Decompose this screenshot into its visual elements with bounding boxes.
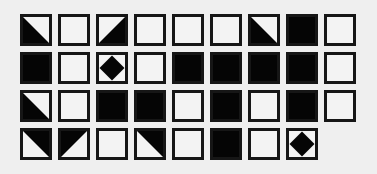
grid-cell-filled bbox=[248, 52, 280, 84]
grid-cell-filled bbox=[134, 90, 166, 122]
grid-cell-filled bbox=[20, 52, 52, 84]
grid-cell-filled bbox=[286, 90, 318, 122]
grid-cell-diamond bbox=[96, 52, 128, 84]
grid-blank bbox=[324, 128, 356, 160]
grid-cell-empty bbox=[324, 90, 356, 122]
tri-top-right-icon bbox=[23, 131, 49, 157]
grid-cell-tri-bottom-left bbox=[20, 14, 52, 46]
tri-bottom-left-icon bbox=[251, 17, 277, 43]
grid-cell-empty bbox=[172, 90, 204, 122]
grid-cell-tri-bottom-left bbox=[248, 14, 280, 46]
grid-cell-empty bbox=[58, 90, 90, 122]
grid-cell-empty bbox=[324, 52, 356, 84]
grid-cell-empty bbox=[324, 14, 356, 46]
grid-cell-tri-bottom-left bbox=[20, 90, 52, 122]
grid-cell-empty bbox=[96, 128, 128, 160]
grid-cell-diamond bbox=[286, 128, 318, 160]
grid-cell-filled bbox=[96, 90, 128, 122]
grid-cell-filled bbox=[210, 90, 242, 122]
tri-top-right-icon bbox=[137, 131, 163, 157]
tri-bottom-left-icon bbox=[23, 17, 49, 43]
pattern-grid bbox=[20, 14, 356, 160]
grid-cell-empty bbox=[58, 52, 90, 84]
grid-cell-empty bbox=[172, 128, 204, 160]
grid-cell-empty bbox=[248, 128, 280, 160]
diamond-icon bbox=[289, 131, 315, 157]
diamond-icon bbox=[99, 55, 125, 81]
grid-cell-tri-bottom-right bbox=[96, 14, 128, 46]
grid-cell-filled bbox=[210, 52, 242, 84]
grid-cell-empty bbox=[134, 14, 166, 46]
grid-cell-filled bbox=[210, 128, 242, 160]
grid-cell-empty bbox=[134, 52, 166, 84]
grid-cell-empty bbox=[58, 14, 90, 46]
tri-bottom-right-icon bbox=[99, 17, 125, 43]
grid-cell-tri-top-left bbox=[58, 128, 90, 160]
grid-cell-filled bbox=[172, 52, 204, 84]
grid-cell-empty bbox=[210, 14, 242, 46]
tri-top-left-icon bbox=[61, 131, 87, 157]
grid-cell-tri-top-right bbox=[134, 128, 166, 160]
grid-cell-tri-top-right bbox=[20, 128, 52, 160]
tri-bottom-left-icon bbox=[23, 93, 49, 119]
grid-cell-empty bbox=[248, 90, 280, 122]
grid-cell-filled bbox=[286, 14, 318, 46]
grid-cell-filled bbox=[286, 52, 318, 84]
grid-cell-empty bbox=[172, 14, 204, 46]
